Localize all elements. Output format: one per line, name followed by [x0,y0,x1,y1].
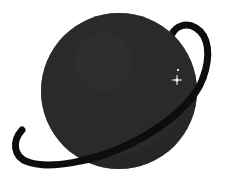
illustration-canvas: Dark silhouette of a ringed planet with … [0,0,241,186]
planet-illustration [0,0,241,186]
star-small [177,69,179,71]
